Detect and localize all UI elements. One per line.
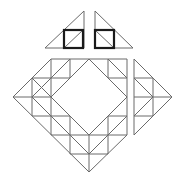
geometric-puzzle-figure — [0, 0, 181, 181]
top-right-triangle — [95, 11, 133, 48]
top-left-triangle — [45, 11, 84, 48]
right-triangle-piece — [134, 59, 172, 135]
diamond-frame — [13, 59, 127, 172]
